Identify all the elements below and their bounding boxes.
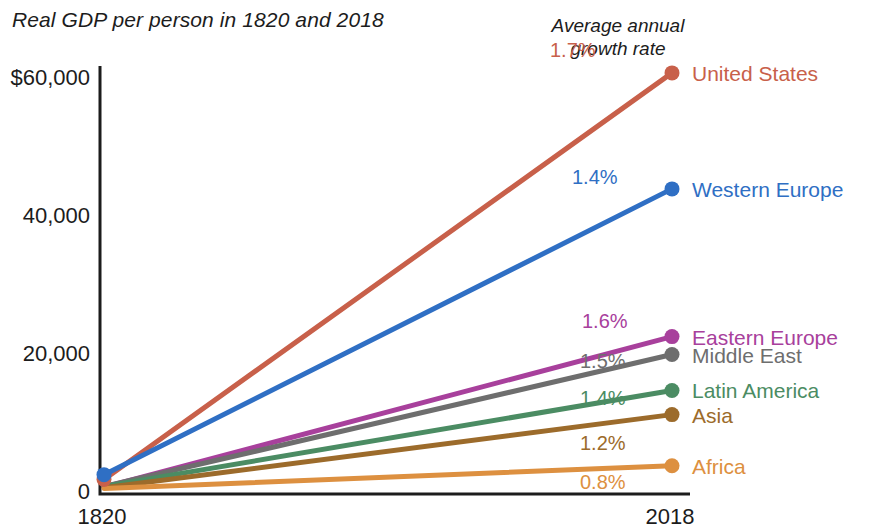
series-name-label: Middle East [692, 345, 802, 366]
x-axis-tick-label: 2018 [646, 504, 695, 530]
y-axis-tick-label: 20,000 [23, 341, 90, 367]
growth-rate-label: 1.6% [582, 311, 628, 331]
series-endpoint-marker [665, 458, 680, 473]
series-name-label: Western Europe [692, 179, 843, 200]
growth-rate-label: 0.8% [580, 472, 626, 492]
series-startpoint-marker [97, 467, 112, 482]
y-axis-tick-label: 40,000 [23, 203, 90, 229]
y-axis-tick-label: $60,000 [10, 65, 90, 91]
growth-rate-label: 1.4% [572, 167, 618, 187]
series-name-label: United States [692, 63, 818, 84]
x-axis-tick-label: 1820 [78, 504, 127, 530]
growth-rate-label: 1.7% [550, 40, 596, 60]
series-endpoint-marker [665, 407, 680, 422]
growth-rate-label: 1.4% [580, 388, 626, 408]
growth-rate-label: 1.2% [580, 433, 626, 453]
series-endpoint-marker [665, 383, 680, 398]
series-endpoint-marker [665, 329, 680, 344]
growth-rate-label: 1.5% [580, 351, 626, 371]
series-name-label: Africa [692, 456, 746, 477]
series-name-label: Latin America [692, 380, 819, 401]
series-endpoint-marker [665, 181, 680, 196]
chart-series-group [104, 73, 672, 489]
series-endpoint-marker [665, 65, 680, 80]
y-axis-tick-label: 0 [78, 479, 90, 505]
chart-figure: Real GDP per person in 1820 and 2018 Ave… [0, 0, 874, 531]
series-name-label: Asia [692, 405, 733, 426]
series-endpoint-marker [665, 347, 680, 362]
